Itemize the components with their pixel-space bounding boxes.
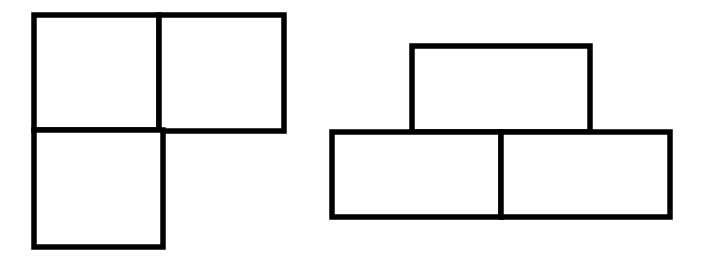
right-cell-bottom-left[interactable] <box>332 132 501 217</box>
figure-canvas: Tromino Shape Comparison <box>0 0 702 275</box>
left-cell-bottom-left[interactable] <box>34 130 163 247</box>
shapes-svg <box>0 0 702 275</box>
right-figure-group <box>332 46 670 217</box>
right-cell-bottom-right[interactable] <box>501 132 670 217</box>
right-cell-top[interactable] <box>412 46 590 132</box>
left-figure-group <box>34 15 284 247</box>
left-cell-top-right[interactable] <box>159 15 284 131</box>
left-cell-top-left[interactable] <box>34 15 159 130</box>
